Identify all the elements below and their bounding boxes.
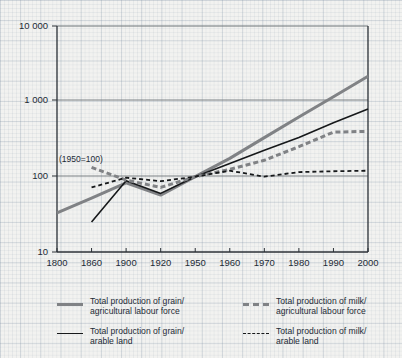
x-tick-label: 1950: [185, 257, 206, 268]
plot-frame: [57, 26, 368, 252]
legend-label: Total production of milk/ arable land: [276, 326, 366, 347]
series-line-1: [92, 109, 368, 222]
legend-item-grain-land[interactable]: Total production of grain/ arable land: [57, 326, 184, 347]
legend-item-grain-alf[interactable]: Total production of grain/ agricultural …: [57, 296, 184, 317]
y-axis-tick-labels: 10 000 1 000 100 10: [19, 20, 48, 257]
baseline-annotation: (1950=100): [59, 154, 103, 164]
legend-item-milk-alf[interactable]: Total production of milk/ agricultural l…: [243, 296, 366, 317]
y-tick-label: 10: [37, 246, 48, 257]
x-tick-label: 1990: [323, 257, 344, 268]
plot-gridlines: [57, 26, 368, 176]
x-tick-label: 1960: [219, 257, 240, 268]
legend-swatch-grain-alf-icon: [57, 298, 83, 310]
x-tick-label: 2000: [357, 257, 378, 268]
x-tick-label: 1980: [288, 257, 309, 268]
legend-swatch-milk-land-icon: [243, 328, 269, 340]
x-tick-label: 1800: [46, 257, 67, 268]
legend-label: Total production of milk/ agricultural l…: [276, 296, 366, 317]
x-tick-label: 1970: [254, 257, 275, 268]
legend-swatch-grain-land-icon: [57, 328, 83, 340]
legend-column-left: Total production of grain/ agricultural …: [57, 296, 184, 356]
series-line-0: [57, 76, 368, 213]
legend-column-right: Total production of milk/ agricultural l…: [243, 296, 366, 356]
data-series-layer: [57, 76, 368, 222]
chart-legend: Total production of grain/ agricultural …: [0, 296, 402, 358]
legend-label: Total production of grain/ arable land: [90, 326, 184, 347]
legend-item-milk-land[interactable]: Total production of milk/ arable land: [243, 326, 366, 347]
y-tick-label: 100: [32, 170, 48, 181]
y-tick-label: 1 000: [24, 94, 48, 105]
x-tick-label: 1920: [150, 257, 171, 268]
y-tick-label: 10 000: [19, 20, 48, 31]
legend-swatch-milk-alf-icon: [243, 298, 269, 310]
x-tick-label: 1900: [116, 257, 137, 268]
chart-container: 10 000 1 000 100 10 18001860190019201950…: [0, 0, 402, 358]
x-tick-label: 1860: [81, 257, 102, 268]
legend-label: Total production of grain/ agricultural …: [90, 296, 184, 317]
x-axis-tick-labels: 1800186019001920195019601970198019902000: [46, 257, 378, 268]
y-axis-ticks: [52, 26, 57, 252]
